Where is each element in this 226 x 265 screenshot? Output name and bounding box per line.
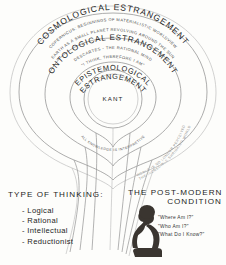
question-who-am-i: "Who Am I?" <box>158 223 205 232</box>
list-item: - Reductionist <box>22 237 116 247</box>
post-modern-condition-block: THE POST-MODERN CONDITION "Where Am I?" … <box>128 188 224 206</box>
question-what-do-i-know: "What Do I Know?" <box>158 231 205 240</box>
post-modern-heading-line-1: THE POST-MODERN <box>128 188 224 197</box>
diagram-canvas: COSMOLOGICAL ESTRANGEMENT COPERNICUS: BE… <box>0 0 226 265</box>
outer-arc-label-2: WORLD IS NO LONGER PERCEIVED <box>136 124 186 177</box>
type-of-thinking-list: - Logical - Rational - Intellectual - Re… <box>8 206 116 247</box>
list-item: - Rational <box>22 216 116 226</box>
outer-arc-labels: THE INCREDIBLE SHRINKING WORLD WORLD IS … <box>136 124 192 181</box>
list-item: - Logical <box>22 206 116 216</box>
type-of-thinking-block: TYPE OF THINKING: - Logical - Rational -… <box>8 190 116 247</box>
list-item: - Intellectual <box>22 226 116 236</box>
post-modern-questions: "Where Am I?" "Who Am I?" "What Do I Kno… <box>158 214 205 240</box>
type-of-thinking-heading: TYPE OF THINKING: <box>8 190 116 199</box>
ring-text-cosmological: COSMOLOGICAL ESTRANGEMENT COPERNICUS: BE… <box>35 2 192 60</box>
question-where-am-i: "Where Am I?" <box>158 214 205 223</box>
kant-label: KANT <box>103 95 124 102</box>
bottom-section: TYPE OF THINKING: - Logical - Rational -… <box>0 182 226 265</box>
